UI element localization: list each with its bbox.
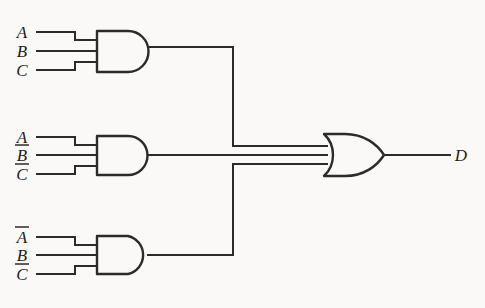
and-gate-3-output-wire — [148, 164, 327, 255]
or-gate-1-body — [324, 134, 384, 176]
and-gate-3-input-wire-3 — [37, 266, 97, 274]
and-gate-1-input-wire-3 — [37, 62, 97, 70]
and-gate-1-output-wire — [148, 47, 327, 146]
and-gate-3-input-wire-1 — [37, 237, 97, 245]
and-gate-2-input-wire-1 — [37, 137, 97, 145]
input-label-g1-a: A — [16, 23, 28, 42]
output-label-d: D — [454, 146, 468, 165]
and-gate-1-body — [97, 31, 149, 72]
input-label-g3-b: B — [17, 246, 28, 265]
and-gate-1 — [37, 31, 327, 146]
input-label-g1-b: B — [17, 42, 28, 61]
and-gate-2 — [37, 136, 327, 175]
or-gate-1 — [324, 134, 450, 176]
input-label-g1-c: C — [16, 61, 28, 80]
and-gate-2-body — [97, 136, 148, 175]
input-label-g2-b-not: B — [17, 146, 28, 165]
and-gate-2-input-wire-3 — [37, 166, 97, 174]
logic-circuit-diagram: A B C A B C A B C D — [0, 0, 485, 308]
input-label-g2-c-not: C — [16, 165, 28, 184]
and-gate-1-input-wire-1 — [37, 32, 97, 40]
circuit-canvas: A B C A B C A B C D — [0, 0, 485, 308]
and-gate-3 — [37, 164, 327, 274]
input-label-g3-a-not: A — [16, 228, 28, 247]
input-label-g3-c-not: C — [16, 265, 28, 284]
input-label-g2-a: A — [16, 128, 28, 147]
and-gate-3-body — [97, 236, 143, 274]
